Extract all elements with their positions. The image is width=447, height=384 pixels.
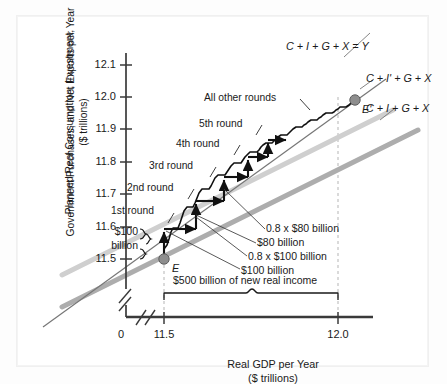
figure-root: 12.1 12.0 11.9 11.8 11.7 11.6 11.5 0 11.… [0,0,447,384]
span-label-500-billion-new-real-income: $500 billion of new real income [173,275,317,287]
series-45-degree-line [43,79,386,327]
y-tick-label-11-5: 11.5 [80,252,116,264]
x-axis-title-line-1: Real GDP per Year [168,357,378,371]
leader-3rd-round [210,167,216,177]
line-label-new-ae: C + I' + G + X [366,72,431,84]
brace-label-100-billion-line1: $100 [78,226,138,238]
callout-label-08x100-billion: 0.8 x $100 billion [248,251,327,263]
chart-frame: 12.1 12.0 11.9 11.8 11.7 11.6 11.5 0 11.… [17,16,428,366]
span-brace-500-billion [164,289,338,300]
axis-origin-label: 0 [113,328,129,340]
label-3rd-round: 3rd round [149,160,193,172]
brace-label-100-billion-line2: billion [78,240,138,252]
callout-label-80-billion: $80 billion [257,237,304,249]
y-axis-title-line-2: Government Purchases, and Net Exports pe… [65,7,78,237]
label-4th-round: 4th round [176,138,220,150]
label-point-e: E [172,262,179,274]
point-marker-e [159,254,169,264]
line-label-45-degree: C + I + G + X = Y [286,40,369,52]
leader-4th-round [234,145,240,155]
callout-label-08x80-billion: 0.8 x $80 billion [266,223,339,235]
y-axis-title-line-3: ($ trillions) [78,7,91,237]
line-label-original-ae: C + I + G + X [366,102,429,114]
y-axis-break-marks [119,289,131,311]
point-marker-e-prime [350,95,360,105]
x-tick-label-12-0: 12.0 [320,328,356,340]
label-point-e-prime: E' [362,103,371,115]
label-5th-round: 5th round [199,118,243,130]
label-2nd-round: 2nd round [127,182,173,194]
leader-2nd-round [188,189,194,199]
leader-all-other-rounds [300,99,310,110]
leader-5th-round [256,125,262,135]
label-all-other-rounds: All other rounds [204,92,276,104]
leader-80 [196,215,256,243]
y-axis-title-secondary: Government Purchases, and Net Exports pe… [52,7,78,237]
x-axis-title-line-2: ($ trillions) [168,371,378,384]
x-axis-title: Real GDP per Year ($ trillions) [168,357,378,384]
x-tick-label-11-5: 11.5 [146,328,182,340]
label-1st-round: 1st round [111,205,154,217]
